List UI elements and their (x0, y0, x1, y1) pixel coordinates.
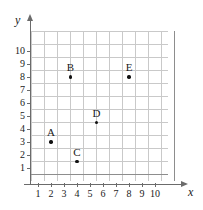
plotted-point-e (127, 75, 130, 78)
gridline-horizontal (31, 122, 168, 123)
y-axis-tick (27, 168, 31, 169)
point-label-c: C (68, 147, 86, 158)
y-axis-tick-label: 7 (9, 85, 25, 95)
y-axis-tick (27, 51, 31, 52)
x-axis-tick (129, 183, 130, 187)
x-axis-arrow-icon (181, 181, 188, 187)
point-label-d: D (88, 108, 106, 119)
y-axis-tick (27, 116, 31, 117)
y-axis-tick-label: 6 (9, 98, 25, 108)
y-axis-tick-label: 3 (9, 137, 25, 147)
gridline-vertical (70, 31, 71, 181)
coordinate-plane-figure: y x 1234567891012345678910 ABCDE (0, 0, 203, 210)
y-axis-tick (27, 142, 31, 143)
y-axis-tick (27, 77, 31, 78)
y-axis-tick-label: 10 (9, 46, 25, 56)
x-axis-tick (142, 183, 143, 187)
gridline-vertical (174, 31, 175, 181)
gridline-horizontal (31, 174, 168, 175)
x-axis-tick (64, 183, 65, 187)
y-axis-tick-label: 2 (9, 150, 25, 160)
gridline-horizontal (31, 96, 168, 97)
y-axis-tick-label: 9 (9, 59, 25, 69)
y-axis-label: y (15, 14, 20, 26)
grid (31, 31, 168, 181)
y-axis-arrow-icon (27, 14, 33, 21)
gridline-horizontal (31, 161, 168, 162)
y-axis-tick (27, 155, 31, 156)
y-axis-tick-label: 8 (9, 72, 25, 82)
x-axis-tick (77, 183, 78, 187)
y-axis-tick-label: 5 (9, 111, 25, 121)
x-axis-label: x (188, 186, 193, 198)
x-axis-tick (116, 183, 117, 187)
point-label-e: E (120, 62, 138, 73)
gridline-vertical (109, 31, 110, 181)
gridline-horizontal (31, 83, 168, 84)
gridline-vertical (96, 31, 97, 181)
x-axis-tick (90, 183, 91, 187)
gridline-horizontal (31, 57, 168, 58)
y-axis-tick (27, 129, 31, 130)
plotted-point-b (69, 75, 72, 78)
plotted-point-a (49, 140, 52, 143)
x-axis-tick (38, 183, 39, 187)
gridline-vertical (148, 31, 149, 181)
gridline-vertical (122, 31, 123, 181)
gridline-vertical (135, 31, 136, 181)
y-axis-tick (27, 64, 31, 65)
gridline-horizontal (31, 31, 168, 32)
gridline-horizontal (31, 148, 168, 149)
gridline-horizontal (31, 70, 168, 71)
x-axis-tick (103, 183, 104, 187)
gridline-vertical (44, 31, 45, 181)
gridline-vertical (83, 31, 84, 181)
y-axis-tick-label: 4 (9, 124, 25, 134)
x-axis-tick (155, 183, 156, 187)
gridline-vertical (161, 31, 162, 181)
plotted-point-c (75, 160, 78, 163)
y-axis-tick (27, 90, 31, 91)
point-label-a: A (42, 127, 60, 138)
gridline-vertical (57, 31, 58, 181)
point-label-b: B (62, 62, 80, 73)
y-axis-tick (27, 103, 31, 104)
y-axis-tick-label: 1 (9, 163, 25, 173)
x-axis-tick (51, 183, 52, 187)
gridline-horizontal (31, 44, 168, 45)
x-axis-tick-label: 10 (147, 189, 163, 199)
